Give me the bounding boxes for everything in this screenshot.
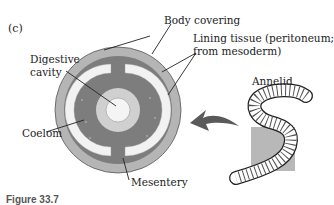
label-lining-tissue-2: from mesoderm) — [193, 45, 281, 57]
label-coelom: Coelom — [22, 127, 62, 139]
arrow-icon — [190, 110, 239, 131]
label-annelid: Annelid — [252, 75, 293, 87]
label-digestive-2: cavity — [30, 66, 62, 78]
figure-caption: Figure 33.7 — [6, 194, 59, 205]
annelid-illustration — [236, 90, 306, 178]
label-mesentery: Mesentery — [131, 176, 188, 188]
label-digestive-1: Digestive — [30, 53, 80, 65]
label-body-covering: Body covering — [164, 14, 240, 26]
label-lining-tissue-1: Lining tissue (peritoneum; — [193, 32, 334, 44]
cross-section — [55, 47, 181, 173]
panel-label: (c) — [8, 23, 23, 35]
